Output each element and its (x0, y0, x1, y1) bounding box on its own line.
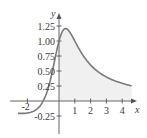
y-tick-label: 0.75 (38, 51, 56, 62)
x-tick-label: 4 (120, 105, 125, 116)
x-axis-arrow-icon (131, 99, 137, 104)
y-tick-labels: -0.250.250.500.751.001.25 (34, 21, 55, 122)
x-axis-label: x (134, 104, 140, 115)
y-tick-label: 0.50 (38, 66, 56, 77)
y-tick-label: -0.25 (34, 111, 55, 122)
x-tick-label: 3 (104, 105, 109, 116)
x-tick-label: 2 (88, 105, 93, 116)
y-axis-arrow-icon (57, 13, 62, 19)
function-plot: -21234 -0.250.250.500.751.001.25 y x (0, 0, 147, 138)
y-axis-label: y (50, 8, 56, 19)
x-tick-label: -2 (21, 101, 29, 112)
y-tick-label: 1.00 (38, 36, 56, 47)
y-tick-label: 1.25 (38, 21, 56, 32)
y-tick-label: 0.25 (38, 81, 56, 92)
shaded-area (59, 29, 132, 101)
x-tick-label: 1 (72, 105, 77, 116)
